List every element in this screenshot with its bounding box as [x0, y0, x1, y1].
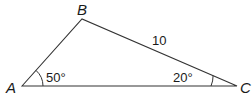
vertex-label-a: A — [5, 79, 16, 96]
triangle-diagram: A B C 50° 20° 10 — [0, 0, 252, 96]
vertex-label-b: B — [77, 1, 87, 18]
angle-label-a: 50° — [46, 70, 66, 85]
vertex-label-c: C — [240, 79, 251, 96]
angle-label-c: 20° — [173, 70, 193, 85]
side-label-bc: 10 — [152, 33, 166, 48]
angle-arc-c — [211, 76, 213, 86]
angle-arc-a — [36, 70, 43, 86]
